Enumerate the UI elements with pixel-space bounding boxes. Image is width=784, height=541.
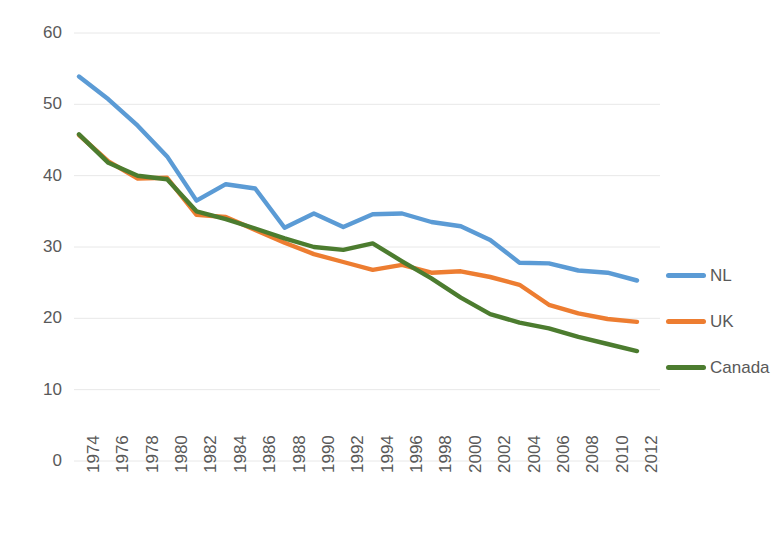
x-tick-label: 1974 — [85, 435, 102, 473]
x-tick-label: 1998 — [437, 435, 454, 473]
legend-item-canada[interactable]: Canada — [666, 344, 784, 390]
x-tick-label: 2012 — [643, 435, 660, 473]
legend-swatch-icon — [666, 319, 706, 324]
x-tick-label: 1986 — [261, 435, 278, 473]
x-tick-label: 1980 — [173, 435, 190, 473]
legend-swatch-icon — [666, 365, 706, 370]
legend-item-uk[interactable]: UK — [666, 298, 784, 344]
x-tick-label: 2008 — [584, 435, 601, 473]
x-tick-label: 1992 — [349, 435, 366, 473]
x-tick-label: 1982 — [202, 435, 219, 473]
legend-label: UK — [710, 313, 734, 330]
x-tick-label: 1976 — [114, 435, 131, 473]
x-tick-label: 1996 — [408, 435, 425, 473]
legend-label: Canada — [710, 359, 770, 376]
x-tick-label: 1994 — [379, 435, 396, 473]
x-tick-label: 1990 — [320, 435, 337, 473]
x-tick-label: 1988 — [291, 435, 308, 473]
x-tick-label: 2010 — [614, 435, 631, 473]
x-tick-label: 2006 — [555, 435, 572, 473]
x-tick-label: 2000 — [467, 435, 484, 473]
x-tick-label: 1984 — [232, 435, 249, 473]
chart-legend: NLUKCanada — [666, 252, 784, 390]
line-chart: 0102030405060 19741976197819801982198419… — [0, 0, 784, 541]
legend-label: NL — [710, 267, 732, 284]
legend-item-nl[interactable]: NL — [666, 252, 784, 298]
x-tick-label: 2004 — [526, 435, 543, 473]
x-tick-label: 2002 — [496, 435, 513, 473]
x-tick-label: 1978 — [144, 435, 161, 473]
legend-swatch-icon — [666, 273, 706, 278]
